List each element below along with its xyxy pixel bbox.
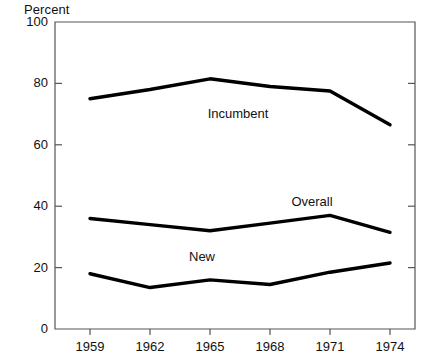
data-series-lines <box>90 79 390 288</box>
series-line-overall <box>90 215 390 232</box>
series-line-incumbent <box>90 79 390 125</box>
line-chart: Percent 100806040200 1959196219651968197… <box>0 0 428 358</box>
tick-marks <box>55 83 415 335</box>
series-line-new <box>90 263 390 288</box>
plot-canvas <box>0 0 428 358</box>
